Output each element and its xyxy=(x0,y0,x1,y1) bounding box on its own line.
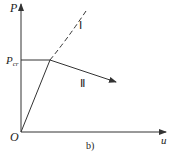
critical-load-label: Pcr xyxy=(5,54,19,68)
y-axis-label: P xyxy=(9,1,18,15)
branch-1-label: Ⅰ xyxy=(79,19,82,31)
origin-label: O xyxy=(10,130,19,144)
figure-caption: b) xyxy=(86,140,94,152)
load-displacement-diagram: P u O Pcr Ⅰ Ⅱ b) xyxy=(0,0,171,158)
primary-path-line xyxy=(21,60,50,132)
branch-2-label: Ⅱ xyxy=(80,77,85,89)
x-axis-label: u xyxy=(161,134,167,146)
